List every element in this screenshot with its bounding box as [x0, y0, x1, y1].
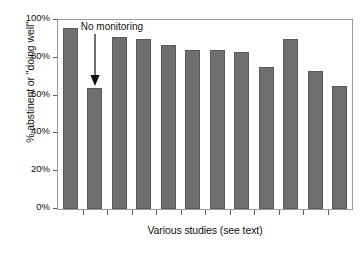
x-axis-tick-mark — [230, 210, 231, 215]
x-axis-label: Various studies (see text) — [57, 224, 353, 236]
y-axis-tick-label: 60% — [31, 89, 50, 99]
bar — [112, 37, 127, 209]
x-axis-tick-mark — [83, 210, 84, 215]
annotation-label: No monitoring — [81, 21, 143, 32]
x-axis-tick-mark — [156, 210, 157, 215]
x-axis-tick-mark — [328, 210, 329, 215]
x-axis-tick-mark — [303, 210, 304, 215]
y-axis-tick-label: 40% — [31, 126, 50, 136]
y-axis-tick-label: 0% — [36, 202, 50, 212]
bar — [210, 50, 225, 209]
bar — [259, 67, 274, 209]
bar — [161, 45, 176, 209]
x-axis-tick-mark — [107, 210, 108, 215]
bar — [308, 71, 323, 209]
bar — [283, 39, 298, 209]
x-axis-tick-mark — [254, 210, 255, 215]
bar — [185, 50, 200, 209]
x-axis-tick-mark — [205, 210, 206, 215]
bar — [234, 52, 249, 209]
bar — [332, 86, 347, 209]
y-axis-tick-label: 80% — [31, 51, 50, 61]
bar-chart-figure: % abstinent or "doing well" 0%20%40%60%8… — [0, 0, 364, 255]
x-axis-tick-mark — [181, 210, 182, 215]
bar — [136, 39, 151, 209]
bar — [87, 88, 102, 209]
bar — [63, 28, 78, 209]
y-axis-tick-label: 100% — [26, 13, 50, 23]
down-arrow-icon — [87, 34, 103, 86]
y-axis-tick-label: 20% — [31, 164, 50, 174]
x-axis-tick-mark — [279, 210, 280, 215]
x-axis-tick-mark — [132, 210, 133, 215]
